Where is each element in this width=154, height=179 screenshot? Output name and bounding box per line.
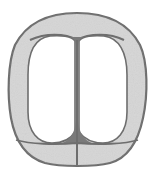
left-cell	[28, 36, 75, 143]
embryo-diagram	[0, 0, 154, 179]
diagram-canvas	[0, 0, 154, 179]
right-cell	[79, 36, 127, 143]
